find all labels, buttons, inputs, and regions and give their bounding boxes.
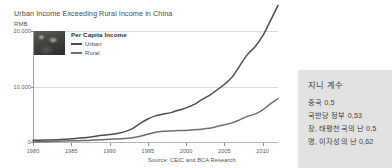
legend-item-urban: Urban (71, 40, 127, 48)
legend-text-block: Per Capita Income Urban Rural (71, 31, 127, 57)
x-tick-label-1995: 1995 (133, 148, 163, 154)
x-tick-mark-1985 (71, 143, 72, 146)
gini-panel-title: 지니 계수 (308, 78, 392, 90)
legend-label-urban: Urban (85, 40, 102, 48)
x-tick-mark-2005 (224, 143, 225, 146)
chart-legend: Per Capita Income Urban Rural (34, 31, 127, 57)
y-tick-label-20000: 20,000 (7, 28, 31, 34)
legend-heading: Per Capita Income (71, 31, 127, 39)
legend-swatch-rural (71, 52, 82, 54)
x-tick-label-1990: 1990 (95, 148, 125, 154)
gini-row: 국반당 정부 0,53 (308, 109, 392, 122)
y-tick-label-10000: 10,000 (7, 84, 31, 90)
gini-row: 명, 이자성의 난 0,62 (308, 135, 392, 148)
gini-rows: 중국 0,5국반당 정부 0,53장, 태평천국의 난 0,5명, 이자성의 난… (308, 96, 392, 148)
x-tick-label-1985: 1985 (56, 148, 86, 154)
photo-thumbnail-icon (34, 31, 65, 55)
x-tick-label-1980: 1980 (18, 148, 48, 154)
chart-figure: Urban Income Exceeding Rural Income in C… (0, 0, 300, 168)
line-rural (33, 99, 278, 142)
x-tick-label-2000: 2000 (171, 148, 201, 154)
x-tick-label-2010: 2010 (248, 148, 278, 154)
y-axis-unit-label: RMB (14, 21, 28, 27)
gini-row: 중국 0,5 (308, 96, 392, 109)
gini-coefficient-panel: 지니 계수 중국 0,5국반당 정부 0,53장, 태평천국의 난 0,5명, … (298, 70, 392, 168)
y-tick-label-0: 0 (7, 139, 31, 145)
x-tick-mark-1995 (148, 143, 149, 146)
gini-row: 장, 태평천국의 난 0,5 (308, 122, 392, 135)
legend-swatch-urban (71, 43, 82, 45)
line-urban (33, 5, 278, 140)
page-title: Urban Income Exceeding Rural Income in C… (14, 9, 172, 18)
legend-item-rural: Rural (71, 49, 127, 57)
legend-label-rural: Rural (85, 49, 100, 57)
x-tick-mark-1990 (110, 143, 111, 146)
source-note: Source: CEIC and BCA Research (148, 157, 236, 163)
x-tick-mark-2000 (186, 143, 187, 146)
x-tick-label-2005: 2005 (209, 148, 239, 154)
x-tick-mark-1980 (33, 143, 34, 146)
x-tick-mark-2010 (263, 143, 264, 146)
